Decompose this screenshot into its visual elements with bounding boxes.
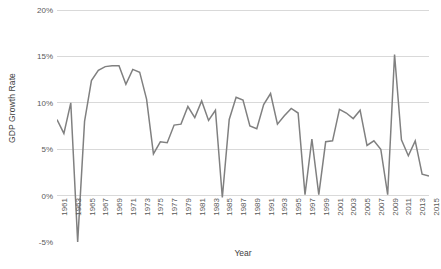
x-tick-label: 1987 [239, 198, 248, 216]
x-tick-label: 1961 [60, 198, 69, 216]
x-tick-label: 1999 [322, 198, 331, 216]
y-tick-label: 5% [22, 145, 53, 154]
x-tick-label: 2011 [404, 198, 413, 215]
x-tick-label: 2001 [336, 198, 345, 216]
x-tick-label: 1971 [129, 198, 138, 216]
x-tick-label: 2013 [418, 198, 427, 216]
x-tick-label: 1989 [253, 198, 262, 216]
x-tick-label: 2009 [391, 198, 400, 216]
y-tick-label: 10% [22, 98, 53, 107]
y-axis-tick-labels: 20%15%10%5%0%-5% [22, 0, 53, 269]
x-tick-label: 1981 [198, 198, 207, 216]
x-tick-label: 1965 [88, 198, 97, 216]
y-axis-title: GDP Growth Rate [0, 0, 24, 215]
x-tick-label: 2007 [377, 198, 386, 216]
y-tick-label: -5% [22, 238, 53, 247]
x-tick-label: 1995 [294, 198, 303, 216]
x-tick-label: 2005 [363, 198, 372, 216]
x-axis-tick-labels: 1961196319651967196919711973197519771979… [57, 198, 429, 246]
x-tick-label: 1979 [184, 198, 193, 216]
x-tick-label: 1993 [280, 198, 289, 216]
x-axis-title: Year [57, 248, 429, 258]
x-tick-label: 1969 [115, 198, 124, 216]
x-tick-label: 2003 [349, 198, 358, 216]
x-tick-label: 2015 [432, 198, 441, 216]
x-tick-label: 1977 [170, 198, 179, 216]
x-tick-label: 1983 [212, 198, 221, 216]
y-tick-label: 0% [22, 191, 53, 200]
x-tick-label: 1991 [267, 198, 276, 216]
x-tick-label: 1967 [101, 198, 110, 216]
x-tick-label: 1963 [74, 198, 83, 216]
y-tick-label: 15% [22, 52, 53, 61]
x-tick-label: 1985 [225, 198, 234, 216]
y-axis-title-label: GDP Growth Rate [7, 73, 17, 143]
x-tick-label: 1997 [308, 198, 317, 216]
x-tick-label: 1973 [143, 198, 152, 216]
x-tick-label: 1975 [156, 198, 165, 216]
y-tick-label: 20% [22, 6, 53, 15]
